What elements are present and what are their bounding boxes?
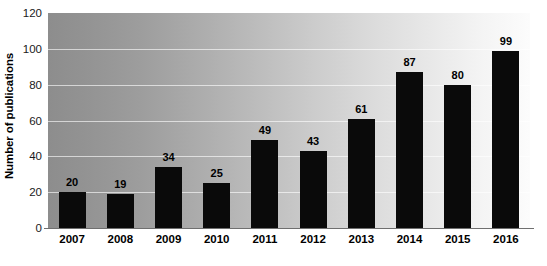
y-tick-label-40: 40	[29, 150, 42, 162]
plot-area: 20193425494361878099	[48, 13, 530, 228]
bar-2016	[492, 51, 519, 228]
bar-2013	[348, 119, 375, 228]
x-tick-label-2013: 2013	[337, 233, 385, 245]
bar-2010	[203, 183, 230, 228]
bar-value-label-2016: 99	[483, 35, 529, 47]
bar-2012	[300, 151, 327, 228]
x-tick-label-2010: 2010	[193, 233, 241, 245]
y-tick-label-20: 20	[29, 186, 42, 198]
gridline	[48, 49, 530, 50]
x-tick-label-2016: 2016	[482, 233, 530, 245]
x-tick-label-2009: 2009	[145, 233, 193, 245]
bar-2011	[251, 140, 278, 228]
bar-value-label-2014: 87	[387, 56, 433, 68]
bar-2015	[444, 85, 471, 228]
x-tick-label-2007: 2007	[48, 233, 96, 245]
bar-value-label-2011: 49	[242, 124, 288, 136]
bar-value-label-2015: 80	[435, 69, 481, 81]
bar-value-label-2010: 25	[194, 167, 240, 179]
x-tick-label-2012: 2012	[289, 233, 337, 245]
x-tick-label-2011: 2011	[241, 233, 289, 245]
x-tick-label-2014: 2014	[386, 233, 434, 245]
bar-chart-figure: Number of publications 020406080100120 2…	[0, 0, 547, 266]
x-axis-tick-labels: 2007200820092010201120122013201420152016	[48, 231, 530, 253]
x-tick-label-2015: 2015	[434, 233, 482, 245]
y-tick-label-80: 80	[29, 79, 42, 91]
bar-value-label-2008: 19	[97, 178, 143, 190]
y-tick-label-0: 0	[36, 222, 42, 234]
y-tick-label-100: 100	[23, 43, 42, 55]
bar-value-label-2007: 20	[49, 176, 95, 188]
y-axis-tick-labels: 020406080100120	[14, 0, 45, 240]
bar-value-label-2012: 43	[290, 135, 336, 147]
bar-2008	[107, 194, 134, 228]
x-axis-line	[44, 228, 534, 229]
x-tick-label-2008: 2008	[96, 233, 144, 245]
y-tick-label-60: 60	[29, 115, 42, 127]
y-tick-label-120: 120	[23, 7, 42, 19]
bar-2014	[396, 72, 423, 228]
bar-value-label-2009: 34	[146, 151, 192, 163]
bar-2007	[59, 192, 86, 228]
bar-value-label-2013: 61	[338, 103, 384, 115]
bar-2009	[155, 167, 182, 228]
